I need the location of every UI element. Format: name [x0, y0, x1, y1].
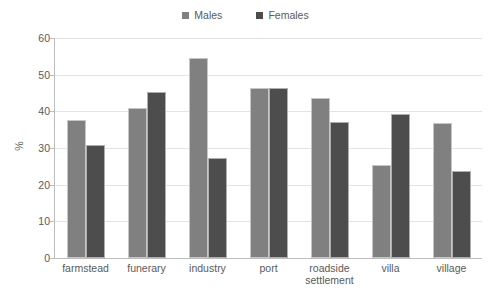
bar-males[interactable] [250, 88, 269, 258]
bar-males[interactable] [67, 120, 86, 258]
bar-females[interactable] [269, 88, 288, 258]
bar-groups [55, 38, 482, 258]
plot-area: % 6050403020100 farmsteadfuneraryindustr… [0, 0, 491, 305]
bar-males[interactable] [433, 123, 452, 258]
bar-males[interactable] [311, 98, 330, 258]
bar-females[interactable] [147, 92, 166, 258]
y-axis-tick-label: 10 [24, 216, 50, 227]
x-axis-tick-label: industry [177, 262, 238, 286]
bar-group [299, 38, 360, 258]
x-axis-tick-labels: farmsteadfuneraryindustryportroadside se… [55, 262, 482, 286]
bar-group [421, 38, 482, 258]
bar-females[interactable] [330, 122, 349, 258]
bar-group [177, 38, 238, 258]
bar-females[interactable] [208, 158, 227, 258]
y-axis-tick-label: 20 [24, 179, 50, 190]
y-axis-title: % [13, 141, 25, 150]
bar-group [360, 38, 421, 258]
bar-females[interactable] [391, 114, 410, 258]
y-axis-tick-label: 40 [24, 106, 50, 117]
x-axis-tick-label: farmstead [55, 262, 116, 286]
y-axis-tick-labels: 6050403020100 [24, 0, 50, 305]
x-axis-tick-label: funerary [116, 262, 177, 286]
bar-group [116, 38, 177, 258]
x-axis-tick-label: port [238, 262, 299, 286]
x-axis-tick-label: villa [360, 262, 421, 286]
bar-females[interactable] [86, 145, 105, 258]
bar-males[interactable] [372, 165, 391, 259]
x-axis-tick-label: roadside settlement [299, 262, 360, 286]
x-axis-tick-label: village [421, 262, 482, 286]
y-axis-tick-label: 30 [24, 143, 50, 154]
bar-chart: Males Females % 6050403020100 farmsteadf… [0, 0, 491, 305]
y-axis-tick-label: 60 [24, 33, 50, 44]
y-axis-tick-label: 50 [24, 69, 50, 80]
bar-group [238, 38, 299, 258]
gridline [54, 258, 482, 259]
bar-group [55, 38, 116, 258]
bar-males[interactable] [128, 108, 147, 258]
y-axis-tick-label: 0 [24, 253, 50, 264]
bar-males[interactable] [189, 58, 208, 258]
bar-females[interactable] [452, 171, 471, 258]
